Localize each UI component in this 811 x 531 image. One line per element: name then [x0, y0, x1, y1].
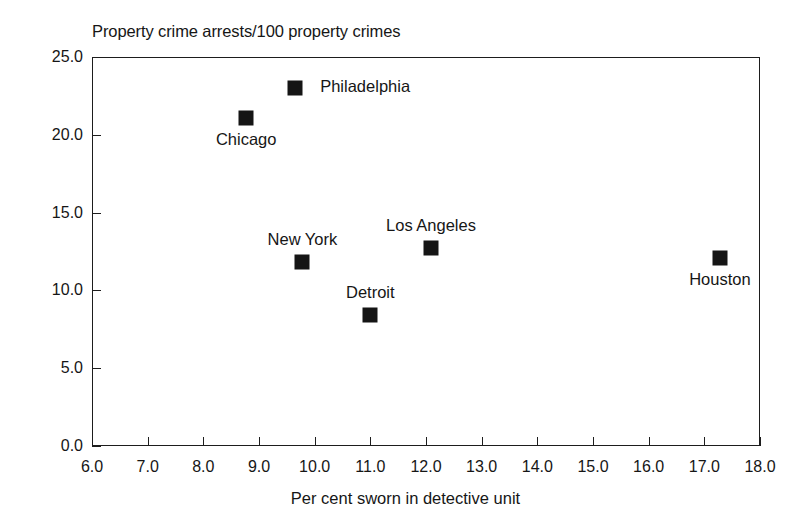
x-tick-label: 15.0	[577, 458, 608, 476]
x-tick-label: 16.0	[633, 458, 664, 476]
y-tick-mark	[92, 213, 101, 214]
y-tick-label: 25.0	[0, 48, 83, 66]
y-tick-mark	[92, 57, 101, 58]
chart-title: Property crime arrests/100 property crim…	[92, 22, 400, 41]
data-point-marker[interactable]	[295, 255, 310, 270]
x-tick-mark	[426, 437, 427, 446]
scatter-chart: Property crime arrests/100 property crim…	[0, 0, 811, 531]
data-point-label: Detroit	[346, 283, 395, 302]
x-tick-mark	[760, 437, 761, 446]
y-tick-label: 20.0	[0, 126, 83, 144]
y-tick-mark	[92, 135, 101, 136]
data-point-marker[interactable]	[288, 81, 303, 96]
data-point-label: Chicago	[216, 130, 277, 149]
x-tick-label: 10.0	[299, 458, 330, 476]
x-tick-label: 11.0	[355, 458, 385, 476]
x-tick-label: 13.0	[466, 458, 497, 476]
data-point-label: New York	[268, 230, 338, 249]
x-tick-label: 8.0	[192, 458, 214, 476]
data-point-marker[interactable]	[424, 241, 439, 256]
data-point-label: Houston	[689, 270, 750, 289]
y-tick-label: 0.0	[0, 437, 83, 455]
y-tick-label: 5.0	[0, 359, 83, 377]
x-tick-mark	[593, 437, 594, 446]
x-tick-mark	[148, 437, 149, 446]
x-axis-title: Per cent sworn in detective unit	[0, 489, 811, 508]
data-point-marker[interactable]	[239, 110, 254, 125]
y-tick-label: 10.0	[0, 281, 83, 299]
x-tick-label: 12.0	[410, 458, 441, 476]
x-tick-label: 18.0	[744, 458, 775, 476]
data-point-label: Philadelphia	[320, 77, 410, 96]
x-tick-mark	[315, 437, 316, 446]
x-tick-label: 7.0	[137, 458, 159, 476]
x-tick-mark	[370, 437, 371, 446]
data-point-label: Los Angeles	[386, 216, 476, 235]
x-tick-mark	[704, 437, 705, 446]
x-tick-mark	[482, 437, 483, 446]
x-tick-mark	[649, 437, 650, 446]
data-point-marker[interactable]	[712, 250, 727, 265]
y-tick-mark	[92, 446, 101, 447]
y-tick-mark	[92, 368, 101, 369]
x-tick-label: 17.0	[689, 458, 720, 476]
x-tick-label: 14.0	[522, 458, 553, 476]
x-tick-label: 9.0	[248, 458, 270, 476]
x-tick-mark	[203, 437, 204, 446]
y-tick-label: 15.0	[0, 204, 83, 222]
x-tick-mark	[92, 437, 93, 446]
x-tick-mark	[259, 437, 260, 446]
x-tick-label: 6.0	[81, 458, 103, 476]
x-tick-mark	[537, 437, 538, 446]
y-tick-mark	[92, 290, 101, 291]
data-point-marker[interactable]	[363, 308, 378, 323]
